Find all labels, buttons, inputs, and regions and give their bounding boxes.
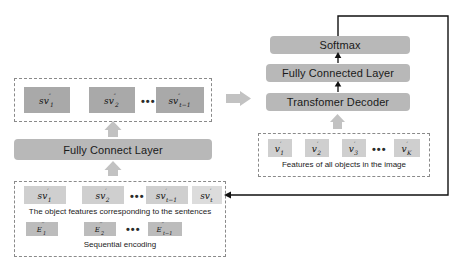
token-superscript: ′ (166, 187, 167, 194)
arrow-up-objects-to-decoder (330, 114, 345, 129)
token-sv2-tminus1: sv″t−1 (156, 87, 204, 113)
token-superscript: ″ (178, 92, 180, 99)
token-base: sv (96, 191, 106, 201)
token-superscript: ′ (47, 187, 48, 194)
token-superscript: ′ (105, 187, 106, 194)
token-subscript: 1 (50, 101, 54, 108)
token-subscript: t−1 (163, 230, 172, 236)
token-subscript: t−1 (179, 101, 190, 108)
arrow-up-input-to-fc (105, 161, 122, 176)
object-features-caption: Features of all objects in the image (258, 160, 430, 169)
token-base: sv (200, 191, 210, 201)
token-subscript: 3 (354, 149, 358, 156)
token-subscript: 2 (317, 149, 321, 156)
token-subscript: t−1 (166, 196, 177, 203)
token-subscript: t (210, 196, 212, 203)
token-superscript: ′ (317, 140, 318, 147)
token-e-1: E′′1 (26, 222, 58, 236)
token-base: E (157, 226, 162, 234)
token-subscript: 2 (106, 196, 110, 203)
arrow-up-decoder-to-fcl (335, 81, 342, 92)
left-output-ellipsis: ••• (141, 96, 156, 107)
token-base: sv (39, 96, 49, 106)
token-sv2-1: sv″1 (24, 87, 70, 113)
softmax-block[interactable]: Softmax (270, 36, 410, 54)
token-sv1-tminus1: sv′t−1 (146, 186, 188, 204)
transformer-decoder-block[interactable]: Transfomer Decoder (266, 93, 410, 111)
arrow-right-left-to-right (226, 91, 251, 106)
fully-connected-layer-block[interactable]: Fully Connected Layer (266, 64, 410, 82)
token-superscript: ′ (280, 140, 281, 147)
token-superscript: ″ (49, 92, 51, 99)
token-base: sv (168, 96, 178, 106)
left-sentence-ellipsis: ••• (130, 191, 145, 202)
token-v-3: v′3 (342, 139, 366, 157)
token-sv1-t: sv′t (192, 186, 222, 204)
token-superscript: ′′ (100, 221, 102, 227)
token-sv2-2: sv″2 (89, 87, 135, 113)
token-base: v (402, 144, 407, 154)
token-superscript: ′ (210, 187, 211, 194)
token-subscript: 1 (48, 196, 52, 203)
object-features-ellipsis: ••• (372, 144, 387, 155)
token-superscript: ′′ (42, 221, 44, 227)
arrow-up-fc-to-output (105, 121, 122, 137)
token-sv1-1: sv′1 (24, 186, 66, 204)
token-v-1: v′1 (268, 139, 292, 157)
sequential-encoding-caption: Sequential encoding (14, 240, 226, 249)
token-subscript: 2 (115, 101, 119, 108)
token-subscript: 2 (101, 230, 104, 236)
left-encoding-ellipsis: ••• (126, 224, 141, 235)
diagram-canvas: sv″1 sv″2 ••• sv″t−1 Fully Connect Layer… (0, 0, 465, 277)
left-fully-connect-layer[interactable]: Fully Connect Layer (14, 139, 212, 160)
token-base: sv (38, 191, 48, 201)
token-v-2: v′2 (305, 139, 329, 157)
token-subscript: 1 (280, 149, 284, 156)
token-superscript: ′ (354, 140, 355, 147)
token-superscript: ′ (407, 140, 408, 147)
token-subscript: 1 (43, 230, 46, 236)
token-sv1-2: sv′2 (82, 186, 124, 204)
token-base: E (37, 226, 42, 234)
token-base: sv (104, 96, 114, 106)
sentence-features-caption: The object features corresponding to the… (14, 207, 226, 216)
token-v-K: v′K (394, 139, 420, 157)
token-base: E (95, 226, 100, 234)
token-superscript: ′′ (162, 221, 164, 227)
token-base: sv (156, 191, 166, 201)
token-e-2: E′′2 (84, 222, 116, 236)
token-subscript: K (407, 149, 411, 156)
token-e-tminus1: E′′t−1 (148, 222, 182, 236)
token-superscript: ″ (114, 92, 116, 99)
